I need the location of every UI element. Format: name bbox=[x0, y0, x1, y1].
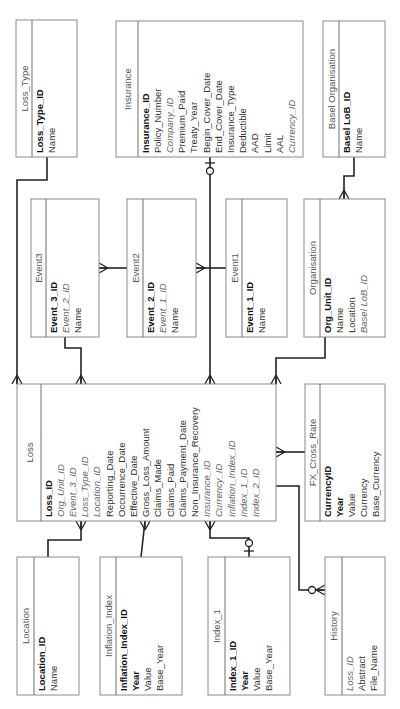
attribute-plain: Name bbox=[256, 308, 267, 333]
attribute-fk: Loss_Type_ID bbox=[79, 456, 90, 517]
optional-circle-icon bbox=[207, 168, 214, 175]
attribute-pk: Org_Unit_ID bbox=[322, 277, 333, 333]
attribute-plain: Location bbox=[346, 297, 357, 333]
attribute-plain: Base_Year bbox=[154, 645, 165, 691]
entity-title: Index_1 bbox=[211, 609, 222, 643]
attribute-fk: Index_1_ID bbox=[238, 468, 249, 517]
attribute-plain: Currency bbox=[358, 478, 369, 517]
attribute-plain: Policy_Number bbox=[152, 89, 163, 153]
relationship-line bbox=[276, 337, 325, 384]
attribute-plain: Value bbox=[251, 667, 262, 691]
attribute-plain: Base_Currency bbox=[370, 451, 381, 517]
attribute-plain: Name bbox=[48, 666, 59, 691]
entity-event2[interactable]: Event2Event_2_IDEvent_1_IDName bbox=[127, 199, 196, 337]
attribute-fk: Event_1_ID bbox=[157, 283, 168, 333]
relationship-inflation-loss[interactable] bbox=[140, 521, 150, 557]
entity-loss_type[interactable]: Loss_TypeLoss_Type_IDName bbox=[16, 20, 77, 157]
entity-location[interactable]: LocationLocation_IDName bbox=[17, 557, 79, 695]
entity-title: Loss bbox=[24, 442, 35, 462]
attribute-fk: Currency_ID bbox=[213, 464, 224, 517]
entity-history[interactable]: HistoryLoss_IDAbstractFile_Name bbox=[325, 557, 385, 695]
attribute-plain: Name bbox=[72, 308, 83, 333]
relationship-event3-loss[interactable] bbox=[65, 337, 86, 384]
entity-title: Inflation_Index bbox=[103, 595, 114, 657]
attribute-plain: Occurrence_Date bbox=[116, 443, 127, 517]
attribute-fk: Currency_ID bbox=[286, 100, 297, 153]
attribute-fk: Location_ID bbox=[91, 466, 102, 517]
attribute-pk: Inflation_Index_ID bbox=[118, 609, 129, 691]
attribute-pk: Event_1_ID bbox=[244, 282, 255, 333]
er-diagram-canvas: Loss_TypeLoss_Type_IDNameInsuranceInsura… bbox=[0, 0, 400, 709]
attribute-pk: CurrencyID bbox=[322, 466, 333, 517]
attribute-plain: Treaty_Year bbox=[188, 102, 199, 153]
attribute-plain: AAL bbox=[274, 135, 285, 153]
attribute-plain: Base_Year bbox=[263, 645, 274, 691]
entity-insurance[interactable]: InsuranceInsurance_IDPolicy_NumberCompan… bbox=[116, 21, 303, 157]
attribute-plain: Value bbox=[346, 493, 357, 517]
attribute-pk: Event_2_ID bbox=[145, 282, 156, 333]
attribute-plain: Reporting_Date bbox=[104, 450, 115, 517]
entity-title: Event3 bbox=[33, 253, 44, 283]
attribute-pk: Year bbox=[334, 497, 345, 517]
attribute-plain: Non_Insurance_Recovery bbox=[189, 407, 200, 517]
attribute-pk: Index_1_ID bbox=[227, 641, 238, 691]
entity-title: FX_Cross_Rate bbox=[307, 419, 318, 487]
entity-title: Loss_Type bbox=[19, 66, 30, 112]
attribute-fk: Org_Unit_ID bbox=[55, 464, 66, 517]
attribute-fk: Basel LoB_ID bbox=[358, 275, 369, 333]
entity-title: Organisation bbox=[307, 241, 318, 295]
entity-event3[interactable]: Event3Event_3_IDEvent_2_IDName bbox=[31, 199, 99, 337]
attribute-plain: Insurance_Type bbox=[225, 85, 236, 153]
entity-organisation[interactable]: OrganisationOrg_Unit_IDNameLocationBasel… bbox=[304, 199, 385, 337]
attribute-fk: Company_ID bbox=[164, 97, 175, 153]
entity-title: History bbox=[328, 611, 339, 641]
attribute-pk: Insurance_ID bbox=[140, 93, 151, 153]
relationship-organisation-loss[interactable] bbox=[271, 337, 325, 384]
relationship-location-loss[interactable] bbox=[48, 521, 86, 557]
entity-loss[interactable]: LossLoss_IDOrg_Unit_IDEvent_3_IDLoss_Typ… bbox=[17, 384, 276, 521]
relationship-event2-event3[interactable] bbox=[99, 263, 127, 273]
entity-title: Location bbox=[20, 608, 31, 644]
attribute-plain: Name bbox=[353, 128, 364, 153]
relationship-fx-loss[interactable] bbox=[276, 447, 305, 457]
attribute-fk: Index_2_ID bbox=[250, 468, 261, 517]
attribute-plain: Abstract bbox=[356, 656, 367, 691]
attribute-pk: Basel LoB_ID bbox=[341, 92, 352, 153]
attribute-pk: Year bbox=[239, 671, 250, 691]
attribute-plain: Value bbox=[142, 667, 153, 691]
attribute-pk: Loss_ID bbox=[43, 480, 54, 517]
attribute-pk: Loss_Type_ID bbox=[34, 89, 45, 153]
entity-basel_org[interactable]: Basel OrganisationBasel LoB_IDName bbox=[323, 21, 385, 157]
attribute-plain: AAD bbox=[249, 133, 260, 153]
attribute-fk: Inflation_Index_ID bbox=[226, 440, 237, 517]
attribute-plain: Premium_Paid bbox=[176, 91, 187, 153]
entity-fx[interactable]: FX_Cross_RateCurrencyIDYearValueCurrency… bbox=[305, 384, 385, 521]
relationship-insurance-loss[interactable] bbox=[205, 157, 215, 384]
relationship-index1-loss[interactable] bbox=[205, 521, 254, 557]
attribute-plain: File_Name bbox=[368, 645, 379, 691]
entity-title: Basel Organisation bbox=[326, 49, 337, 129]
attribute-fk: Loss_ID bbox=[344, 656, 355, 691]
attribute-plain: Begin_Cover_Date bbox=[201, 73, 212, 153]
attribute-plain: End_Cover_Date bbox=[213, 80, 224, 153]
optional-circle-icon bbox=[309, 587, 316, 594]
optional-circle-icon bbox=[246, 540, 253, 547]
attribute-plain: Effective_Date bbox=[128, 455, 139, 517]
relationship-event1-event2[interactable] bbox=[196, 263, 226, 273]
entity-boxes: Loss_TypeLoss_Type_IDNameInsuranceInsura… bbox=[16, 20, 385, 695]
entity-event1[interactable]: Event1Event_1_IDName bbox=[226, 199, 287, 337]
attribute-plain: Deductible bbox=[237, 108, 248, 153]
attribute-fk: Event_2_ID bbox=[60, 283, 71, 333]
relationship-line bbox=[65, 337, 81, 384]
attribute-plain: Limit bbox=[262, 133, 273, 153]
entity-inflation[interactable]: Inflation_IndexInflation_Index_IDYearVal… bbox=[100, 557, 182, 695]
attribute-plain: Claims_Made bbox=[152, 459, 163, 517]
entity-title: Insurance bbox=[122, 68, 133, 110]
relationship-basel_org-organisation[interactable] bbox=[339, 157, 354, 199]
entity-title: Event2 bbox=[130, 253, 141, 283]
attribute-plain: Gross_Loss_Amount bbox=[140, 428, 151, 517]
entity-title: Event1 bbox=[229, 253, 240, 283]
attribute-plain: Name bbox=[46, 128, 57, 153]
entity-index1[interactable]: Index_1Index_1_IDYearValueBase_Year bbox=[208, 557, 290, 695]
attribute-pk: Location_ID bbox=[36, 636, 47, 691]
